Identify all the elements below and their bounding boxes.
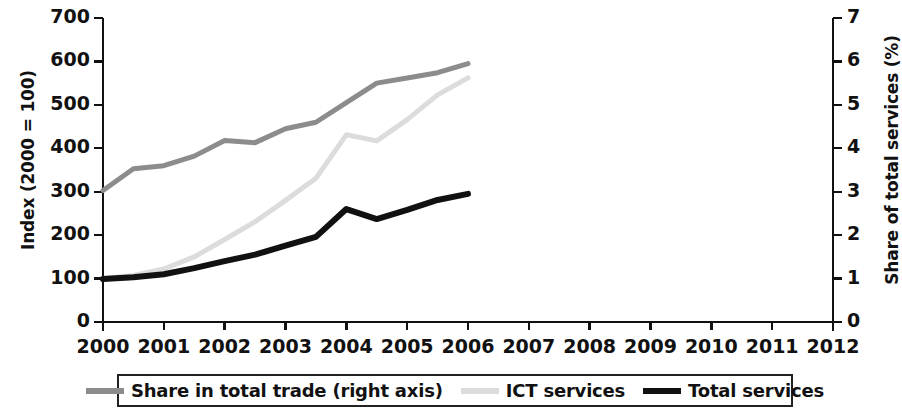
legend-color-swatch <box>643 388 681 394</box>
right-tick-label: 6 <box>847 48 877 70</box>
x-tick-label: 2009 <box>621 335 681 357</box>
left-tick-label: 300 <box>12 179 90 201</box>
x-tick-label: 2001 <box>134 335 194 357</box>
x-tick-label: 2002 <box>195 335 255 357</box>
left-tick-label: 100 <box>12 266 90 288</box>
x-tick-label: 2008 <box>560 335 620 357</box>
right-tick-label: 5 <box>847 92 877 114</box>
left-tick-label: 400 <box>12 135 90 157</box>
x-tick-label: 2007 <box>499 335 559 357</box>
x-tick-label: 2006 <box>438 335 498 357</box>
x-tick-label: 2011 <box>742 335 802 357</box>
legend-entry[interactable]: Share in total trade (right axis) <box>86 380 443 401</box>
right-tick-label: 7 <box>847 5 877 27</box>
right-tick-label: 0 <box>847 309 877 331</box>
right-tick-label: 1 <box>847 266 877 288</box>
left-tick-label: 0 <box>12 309 90 331</box>
legend-color-swatch <box>461 388 499 394</box>
legend-label: Share in total trade (right axis) <box>131 380 443 401</box>
x-tick-label: 2012 <box>803 335 863 357</box>
left-tick-label: 500 <box>12 92 90 114</box>
series-line <box>103 194 468 279</box>
chart-legend: Share in total trade (right axis)ICT ser… <box>117 374 793 407</box>
left-tick-label: 600 <box>12 48 90 70</box>
x-tick-label: 2003 <box>256 335 316 357</box>
legend-label: ICT services <box>506 380 625 401</box>
right-tick-label: 2 <box>847 222 877 244</box>
series-line <box>103 64 468 191</box>
x-tick-label: 2005 <box>377 335 437 357</box>
legend-color-swatch <box>86 388 124 394</box>
legend-entry[interactable]: Total services <box>643 380 824 401</box>
series-lines <box>103 64 468 279</box>
x-tick-label: 2010 <box>681 335 741 357</box>
x-tick-label: 2004 <box>316 335 376 357</box>
legend-label: Total services <box>688 380 824 401</box>
right-tick-label: 4 <box>847 135 877 157</box>
right-tick-label: 3 <box>847 179 877 201</box>
left-tick-label: 200 <box>12 222 90 244</box>
legend-entry[interactable]: ICT services <box>461 380 625 401</box>
x-tick-label: 2000 <box>73 335 133 357</box>
left-tick-label: 700 <box>12 5 90 27</box>
